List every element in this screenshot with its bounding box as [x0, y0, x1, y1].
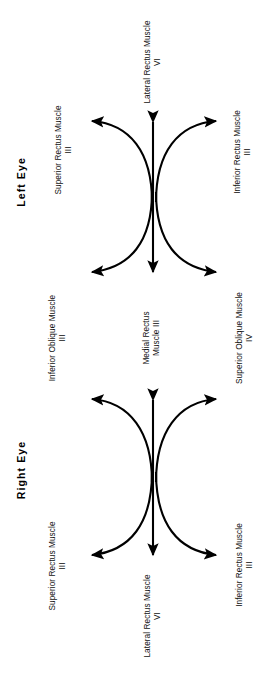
right-eye-superior-oblique-arrow — [156, 399, 216, 482]
right-eye-arrows — [92, 399, 216, 555]
right-eye-inferior-rectus-arrow — [156, 472, 216, 555]
left-eye-superior-oblique-arrow — [156, 192, 216, 272]
left-eye-superior-rectus-arrow — [92, 121, 152, 202]
right-eye-inferior-oblique-arrow — [92, 399, 152, 482]
extraocular-muscle-diagram: Lateral Rectus Muscle VI Left Eye Superi… — [0, 0, 279, 677]
left-eye-inferior-oblique-arrow — [92, 192, 152, 272]
left-eye-arrows — [92, 121, 216, 272]
arrow-layer — [0, 0, 279, 677]
left-eye-inferior-rectus-arrow — [156, 121, 216, 202]
right-eye-superior-rectus-arrow — [92, 472, 152, 555]
